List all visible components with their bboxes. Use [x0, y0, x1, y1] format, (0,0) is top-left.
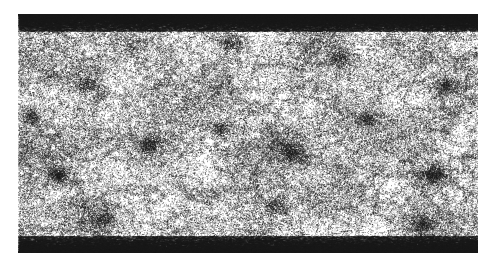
sky-map-panel[interactable]	[18, 14, 478, 253]
sky-scatter-canvas[interactable]	[18, 14, 478, 253]
figure-root	[0, 0, 495, 265]
